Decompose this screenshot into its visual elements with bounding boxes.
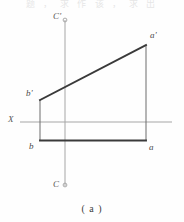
x-axis-label: X [8, 115, 14, 124]
point-label-a: a [149, 143, 154, 152]
point-label-b-prime: b' [26, 89, 33, 98]
front-projection-line [40, 45, 146, 100]
c-axis-top-label: C' [53, 12, 61, 21]
figure-caption: ( a ) [0, 203, 184, 214]
point-label-b: b [29, 142, 34, 151]
c-axis-bottom-label: C [53, 180, 59, 189]
point-label-a-prime: a' [150, 31, 157, 40]
projection-figure: 题 ， 求 作 该 ， 求 出 X C' C a' b' b a ( a ) [0, 0, 184, 222]
